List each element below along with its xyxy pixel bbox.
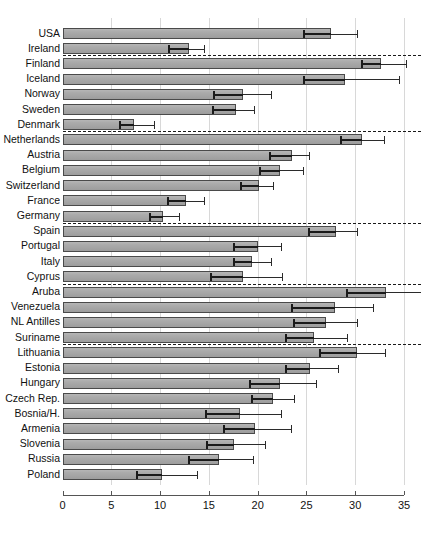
category-label: USA	[0, 27, 60, 39]
category-label: Lithuania	[0, 346, 60, 358]
bar-row: Estonia	[0, 361, 436, 376]
category-label: Portugal	[0, 239, 60, 251]
x-tick-15	[209, 491, 210, 495]
error-bar-cap-low	[223, 425, 225, 433]
error-bar-inner-segment	[212, 109, 236, 111]
bar-row: Portugal	[0, 239, 436, 254]
error-bar-cap-low	[291, 304, 293, 312]
bar	[63, 226, 336, 237]
error-bar-inner-segment	[188, 459, 218, 461]
category-label: France	[0, 194, 60, 206]
bar-row: Belgium	[0, 163, 436, 178]
error-bar-cap-high	[254, 106, 255, 114]
category-label: NL Antilles	[0, 315, 60, 327]
error-bar-cap-high	[294, 395, 295, 403]
error-bar-inner-segment	[259, 170, 280, 172]
error-bar-cap-low	[249, 380, 251, 388]
error-bar-cap-low	[303, 76, 305, 84]
error-bar-cap-high	[357, 319, 358, 327]
category-label: Venezuela	[0, 300, 60, 312]
error-bar-cap-high	[385, 349, 386, 357]
error-bar-cap-high	[406, 60, 407, 68]
category-label: Norway	[0, 87, 60, 99]
error-bar-cap-high	[265, 441, 266, 449]
error-bar-inner-segment	[205, 413, 240, 415]
error-bar-cap-high	[357, 228, 358, 236]
error-bar-cap-low	[188, 456, 190, 464]
error-bar-cap-low	[149, 213, 151, 221]
error-bar-cap-high	[204, 197, 205, 205]
error-bar-inner-segment	[240, 185, 259, 187]
x-tick-label: 0	[49, 499, 77, 511]
error-bar-cap-high	[271, 91, 272, 99]
error-bar-cap-high	[303, 167, 304, 175]
error-bar-inner-segment	[308, 231, 335, 233]
bar-row: Austria	[0, 148, 436, 163]
bar	[63, 241, 258, 252]
error-bar-cap-low	[212, 106, 214, 114]
bar	[63, 347, 358, 358]
bar-row: Aruba	[0, 285, 436, 300]
error-bar-cap-low	[346, 289, 348, 297]
bar-row: Russia	[0, 452, 436, 467]
bar	[63, 180, 259, 191]
error-bar-cap-high	[179, 213, 180, 221]
error-bar-cap-low	[361, 60, 363, 68]
error-bar-cap-low	[168, 45, 170, 53]
bar-row: Bosnia/H.	[0, 407, 436, 422]
x-tick-label: 35	[390, 499, 418, 511]
error-bar-cap-low	[285, 334, 287, 342]
bar-row: Lithuania	[0, 346, 436, 361]
category-label: Cyprus	[0, 270, 60, 282]
x-tick-label: 25	[292, 499, 320, 511]
error-bar-cap-high	[253, 456, 254, 464]
x-tick-25	[306, 491, 307, 495]
bar-row: Sweden	[0, 103, 436, 118]
category-label: Aruba	[0, 285, 60, 297]
error-bar-inner-segment	[249, 383, 280, 385]
error-bar-inner-segment	[167, 200, 187, 202]
error-bar-cap-low	[319, 349, 321, 357]
category-label: Sweden	[0, 103, 60, 115]
bar-row: Norway	[0, 87, 436, 102]
error-bar-cap-high	[291, 425, 292, 433]
bar-row: France	[0, 194, 436, 209]
error-bar-cap-low	[293, 319, 295, 327]
error-bar-cap-low	[213, 91, 215, 99]
error-bar-cap-high	[373, 304, 374, 312]
error-bar-inner-segment	[213, 94, 243, 96]
bar-row: Venezuela	[0, 300, 436, 315]
bar	[63, 165, 281, 176]
error-bar-inner-segment	[136, 474, 162, 476]
error-bar-cap-high	[197, 471, 198, 479]
bar-row: Finland	[0, 57, 436, 72]
bar-row: Italy	[0, 255, 436, 270]
x-tick-20	[258, 491, 259, 495]
error-bar-cap-high	[282, 273, 283, 281]
category-label: Czech Rep.	[0, 392, 60, 404]
category-label: Poland	[0, 468, 60, 480]
x-tick-30	[355, 491, 356, 495]
bar	[63, 332, 315, 343]
x-tick-label: 15	[195, 499, 223, 511]
error-bar-inner-segment	[269, 155, 291, 157]
category-label: Russia	[0, 452, 60, 464]
plot-area: USAIrelandFinlandIcelandNorwaySwedenDenm…	[0, 0, 436, 535]
bar-row: Netherlands	[0, 133, 436, 148]
error-bar-inner-segment	[285, 368, 310, 370]
error-bar-cap-low	[259, 167, 261, 175]
error-bar-cap-low	[340, 136, 342, 144]
bar	[63, 134, 363, 145]
error-bar-cap-low	[233, 243, 235, 251]
category-label: Austria	[0, 148, 60, 160]
error-bar-inner-segment	[251, 398, 273, 400]
error-bar-cap-high	[384, 136, 385, 144]
bar-row: USA	[0, 27, 436, 42]
category-label: Finland	[0, 57, 60, 69]
error-bar-cap-low	[136, 471, 138, 479]
bar	[63, 58, 381, 69]
error-bar-inner-segment	[168, 48, 189, 50]
error-bar-cap-low	[251, 395, 253, 403]
error-bar-cap-high	[281, 243, 282, 251]
error-bar-inner-segment	[346, 292, 386, 294]
